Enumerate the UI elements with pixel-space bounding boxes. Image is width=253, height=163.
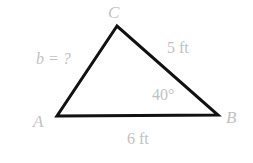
vertex-label-a: A [33,113,43,130]
triangle-outline [57,26,218,116]
angle-label-b: 40° [152,87,174,103]
side-label-b-unknown: b = ? [36,51,71,67]
vertex-label-c: C [108,4,119,21]
vertex-label-b: B [226,109,236,126]
side-label-c-length: 6 ft [127,131,149,147]
triangle-figure: C A B b = ? 5 ft 6 ft 40° [0,0,253,163]
side-label-a-length: 5 ft [167,40,189,56]
